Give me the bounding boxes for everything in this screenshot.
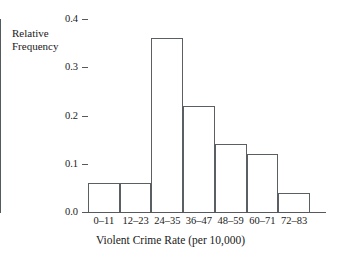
histogram-bar (151, 38, 183, 212)
histogram-bar (215, 144, 247, 212)
histogram-bar (120, 183, 152, 212)
histogram-bar (247, 154, 279, 212)
histogram-bar (278, 193, 310, 212)
x-axis-title: Violent Crime Rate (per 10,000) (0, 233, 341, 247)
x-tick-label: 72–83 (272, 215, 316, 227)
histogram-bar (88, 183, 120, 212)
histogram-bar (183, 106, 215, 212)
histogram-chart: Relative Frequency 0.00.10.20.30.4 0–111… (0, 0, 341, 258)
